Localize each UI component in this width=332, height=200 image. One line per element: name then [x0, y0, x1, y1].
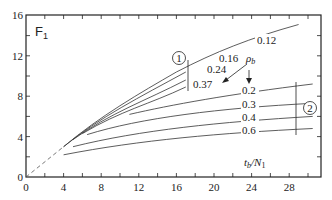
svg-text:16: 16: [171, 181, 183, 193]
svg-text:0.24: 0.24: [207, 63, 227, 75]
svg-text:0.37: 0.37: [193, 78, 213, 90]
svg-text:0.12: 0.12: [257, 34, 276, 46]
chart: 0 4 8 12 16 20 24 28 0 4 8 12 16 F1 tb/N…: [0, 0, 332, 200]
svg-text:12: 12: [12, 50, 23, 62]
svg-text:8: 8: [98, 181, 104, 193]
curve-0.12-dashed: [26, 147, 64, 177]
svg-text:0.4: 0.4: [242, 111, 256, 123]
x-tick-labels: 0 4 8 12 16 20 24 28: [23, 181, 295, 193]
y-tick-labels: 0 4 8 12 16: [12, 9, 24, 183]
svg-text:28: 28: [284, 181, 296, 193]
svg-text:0: 0: [23, 181, 29, 193]
curves: [26, 25, 313, 178]
curve-0.37: [82, 87, 185, 134]
x-axis-title: tb/N1: [244, 156, 265, 170]
svg-text:1: 1: [176, 52, 182, 64]
svg-text:0.3: 0.3: [242, 98, 256, 110]
y-axis-title: F1: [35, 24, 48, 41]
svg-text:8: 8: [18, 90, 24, 102]
svg-text:20: 20: [209, 181, 221, 193]
curve-labels: 0.12 0.16 0.24 0.37 0.2 0.3 0.4 0.6: [193, 34, 277, 136]
svg-text:2: 2: [307, 102, 313, 114]
svg-text:12: 12: [133, 181, 144, 193]
svg-text:0.6: 0.6: [242, 124, 256, 136]
svg-text:0: 0: [18, 171, 24, 183]
svg-text:24: 24: [246, 181, 258, 193]
bracket-2: 2: [296, 82, 317, 135]
curve-0.24: [73, 80, 186, 140]
curve-0.6: [64, 129, 313, 155]
svg-text:4: 4: [18, 131, 24, 143]
svg-text:4: 4: [61, 181, 67, 193]
svg-text:0.2: 0.2: [242, 84, 256, 96]
svg-text:16: 16: [12, 9, 24, 21]
curve-0.4: [73, 116, 313, 146]
